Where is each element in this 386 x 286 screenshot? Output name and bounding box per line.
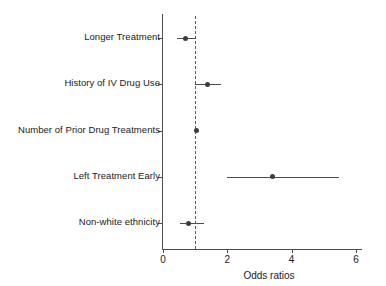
confidence-interval-line [180,223,204,224]
point-estimate-marker [205,82,210,87]
point-estimate-marker [186,221,191,226]
x-tick-label-2: 2 [207,254,247,265]
x-tick-mark-6 [356,249,357,253]
x-tick-label-4: 4 [272,254,312,265]
category-label: Longer Treatment [84,31,160,42]
x-tick-mark-2 [227,249,228,253]
x-axis-title: Odds ratios [0,270,386,281]
point-estimate-marker [183,36,188,41]
x-tick-mark-0 [163,249,164,253]
x-axis-line [162,249,362,250]
forest-plot-figure: 0 2 4 6 Longer TreatmentHistory of IV Dr… [0,0,386,286]
category-label: History of IV Drug Use [64,77,160,88]
x-tick-label-6: 6 [336,254,376,265]
x-tick-label-0: 0 [143,254,183,265]
category-label: Non-white ethnicity [79,216,160,227]
category-label: Number of Prior Drug Treatments [18,124,160,135]
category-label: Left Treatment Early [73,170,160,181]
x-tick-mark-4 [292,249,293,253]
point-estimate-marker [194,128,199,133]
point-estimate-marker [270,174,275,179]
y-axis-line [162,14,163,249]
plot-area: 0 2 4 6 Longer TreatmentHistory of IV Dr… [0,0,386,286]
confidence-interval-line [227,177,339,178]
x-axis-title-text: Odds ratios [243,270,294,281]
